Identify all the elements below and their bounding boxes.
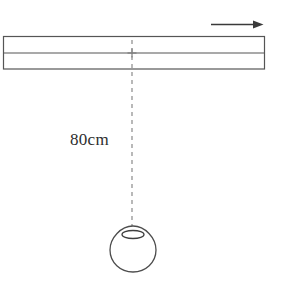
- length-label: 80cm: [70, 130, 109, 150]
- motion-arrow: [211, 21, 264, 29]
- pendulum-bob: [110, 226, 156, 272]
- diagram-canvas: [0, 0, 283, 299]
- bob-eyelet-icon: [122, 231, 144, 239]
- arrow-head-icon: [253, 21, 264, 29]
- pendulum-diagram: 80cm: [0, 0, 283, 299]
